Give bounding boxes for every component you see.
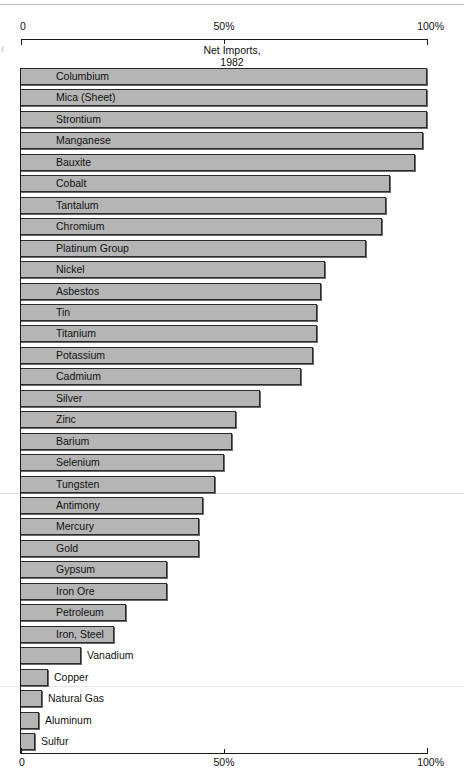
bar [20,411,236,428]
bar-row: Strontium [0,111,464,128]
bar-label: Asbestos [56,283,99,300]
bars-plot-area: ColumbiumMica (Sheet)StrontiumManganeseB… [0,0,464,780]
bar [20,497,203,514]
bar-row: Nickel [0,261,464,278]
bar [20,733,35,750]
bar-row: Potassium [0,347,464,364]
bar-label: Nickel [56,261,85,278]
bar-row: Natural Gas [0,690,464,707]
bar-label: Aluminum [45,712,92,729]
bar-row: Iron, Steel [0,626,464,643]
bar-label: Cadmium [56,368,101,385]
bar-row: Petroleum [0,604,464,621]
bar-label: Tantalum [56,197,99,214]
bottom-axis-tick-100 [427,748,428,754]
bar-row: Bauxite [0,154,464,171]
bar-row: Gold [0,540,464,557]
bar-row: Barium [0,433,464,450]
bar-row: Platinum Group [0,240,464,257]
bar-row: Selenium [0,454,464,471]
bar-row: Tungsten [0,476,464,493]
bar-label: Mica (Sheet) [56,89,116,106]
bar-row: Titanium [0,325,464,342]
bar-label: Antimony [56,497,100,514]
bar-label: Silver [56,390,82,407]
bar-label: Tin [56,304,70,321]
bar-label: Vanadium [87,647,134,664]
bar-row: Asbestos [0,283,464,300]
bar-label: Natural Gas [48,690,104,707]
bar-label: Potassium [56,347,105,364]
bar-label: Iron, Steel [56,626,104,643]
bar-label: Barium [56,433,89,450]
bar [20,540,199,557]
bar-label: Petroleum [56,604,104,621]
bar-row: Silver [0,390,464,407]
bar [20,712,39,729]
bottom-axis-tick-50 [224,749,225,754]
bottom-axis-tick-label-50: 50% [213,757,234,768]
bar [20,476,215,493]
bar-label: Zinc [56,411,76,428]
bar-label: Strontium [56,111,101,128]
bar-row: Antimony [0,497,464,514]
bar-label: Bauxite [56,154,91,171]
bar-row: Gypsum [0,561,464,578]
bar-row: Mercury [0,518,464,535]
bar-row: Manganese [0,132,464,149]
bar-label: Cobalt [56,175,86,192]
bar-row: Cadmium [0,368,464,385]
bar-row: Copper [0,669,464,686]
chart-page: f 0 50% 100% Net Imports, 1982 Columbium… [0,0,464,780]
bar-label: Manganese [56,132,111,149]
bar-label: Selenium [56,454,100,471]
bar-label: Iron Ore [56,583,95,600]
bar-row: Cobalt [0,175,464,192]
bar-row: Tantalum [0,197,464,214]
bar-label: Mercury [56,518,94,535]
bar-label: Sulfur [41,733,68,750]
zero-baseline-spine [20,68,21,754]
bar-row: Vanadium [0,647,464,664]
bar-label: Chromium [56,218,104,235]
bar-row: Mica (Sheet) [0,89,464,106]
bar-label: Gypsum [56,561,95,578]
bottom-axis-tick-label-100: 100% [417,757,444,768]
bar-row: Chromium [0,218,464,235]
bottom-axis-tick-0 [21,748,22,754]
bar [20,518,199,535]
bar-label: Columbium [56,68,109,85]
bottom-axis-tick-label-0: 0 [19,757,25,768]
bar-row: Iron Ore [0,583,464,600]
bar-row: Zinc [0,411,464,428]
bar-row: Tin [0,304,464,321]
bar-row: Sulfur [0,733,464,750]
bar-label: Platinum Group [56,240,129,257]
bar [20,647,81,664]
bar-label: Tungsten [56,476,99,493]
bar-label: Copper [54,669,88,686]
bar-label: Titanium [56,325,96,342]
bar-label: Gold [56,540,78,557]
bar-row: Aluminum [0,712,464,729]
bar [20,454,224,471]
bar [20,669,48,686]
bar [20,690,42,707]
bar [20,433,232,450]
bar-row: Columbium [0,68,464,85]
